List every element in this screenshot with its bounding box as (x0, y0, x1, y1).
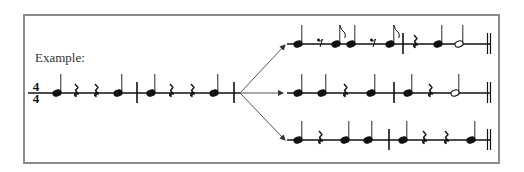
quarter-rest-note (445, 131, 449, 144)
quarter-rest-note (319, 131, 323, 144)
quarter-rest-note (423, 131, 427, 144)
staves (28, 25, 491, 150)
quarter-note (317, 74, 327, 97)
quarter-note (113, 74, 123, 97)
quarter-note (293, 25, 303, 48)
variation-staff-1 (287, 25, 491, 54)
arrow-3 (240, 93, 285, 140)
quarter-note (293, 74, 303, 97)
eighth-note (385, 25, 399, 48)
arrow-1 (240, 45, 285, 93)
quarter-note (146, 74, 156, 97)
quarter-rest-note (75, 84, 79, 97)
eighth-note (331, 25, 345, 48)
variation-staff-3 (287, 121, 491, 150)
quarter-note (293, 121, 303, 144)
quarter-note (346, 25, 356, 48)
rhythm-notation: 4 4 (0, 0, 524, 172)
quarter-note (366, 74, 376, 97)
half-note (450, 74, 460, 97)
quarter-rest-note (95, 84, 99, 97)
quarter-rest-note (414, 35, 418, 48)
quarter-note (340, 121, 350, 144)
quarter-note (52, 74, 62, 97)
eighth-rest-note (370, 39, 375, 47)
quarter-note (466, 121, 476, 144)
quarter-note (209, 74, 219, 97)
half-note (454, 25, 464, 48)
quarter-note (433, 25, 443, 48)
source-rhythm-staff (28, 74, 240, 103)
quarter-note (363, 121, 373, 144)
quarter-note (398, 121, 408, 144)
quarter-rest-note (170, 84, 174, 97)
variation-staff-2 (287, 74, 491, 103)
quarter-rest-note (191, 84, 195, 97)
arrows (240, 45, 285, 140)
quarter-rest-note (344, 84, 348, 97)
eighth-rest-note (317, 39, 322, 47)
quarter-rest-note (429, 84, 433, 97)
quarter-note (403, 74, 413, 97)
